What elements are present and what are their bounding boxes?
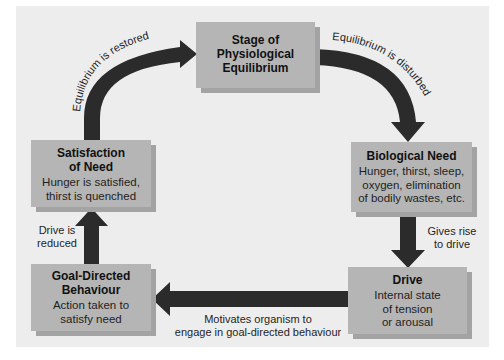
label-line: Gives rise — [424, 225, 480, 238]
label-line: reduced — [34, 237, 80, 250]
label-motivates-organism: Motivates organism to engage in goal-dir… — [168, 313, 348, 339]
label-line: to drive — [424, 238, 480, 251]
label-line: Motivates organism to — [168, 313, 348, 326]
label-line: engage in goal-directed behaviour — [168, 326, 348, 339]
label-drive-is-reduced: Drive is reduced — [34, 224, 80, 250]
label-equilibrium-disturbed: Equilibrium is disturbed — [332, 30, 434, 97]
label-equilibrium-restored: Equilibrium is restored — [70, 29, 150, 112]
label-gives-rise-to-drive: Gives rise to drive — [424, 225, 480, 251]
curve-labels-layer: Equilibrium is restored Equilibrium is d… — [0, 0, 504, 360]
label-line: Drive is — [34, 224, 80, 237]
